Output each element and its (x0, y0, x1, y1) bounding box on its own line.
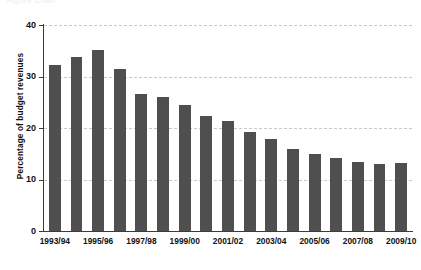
bar (222, 121, 234, 231)
bar (395, 163, 407, 231)
bar (265, 139, 277, 231)
y-tick-label: 20 (10, 124, 36, 133)
bar (71, 57, 83, 231)
bar (135, 94, 147, 232)
x-tick-label: 1999/00 (163, 236, 207, 246)
x-tick-label: 1993/94 (33, 236, 77, 246)
bar (330, 158, 342, 231)
x-tick-label: 2001/02 (206, 236, 250, 246)
clipped-caption-strip: Figure Chart (0, 0, 421, 9)
bar (157, 97, 169, 231)
x-tick-label: 1997/98 (119, 236, 163, 246)
bar (179, 105, 191, 231)
bar (92, 50, 104, 231)
x-axis-line (43, 231, 413, 232)
bar (287, 149, 299, 231)
y-tick-label: 10 (10, 175, 36, 184)
bar (200, 116, 212, 231)
bar (309, 154, 321, 231)
x-tick-label: 2003/04 (249, 236, 293, 246)
bar (244, 132, 256, 231)
gridline (44, 25, 412, 26)
y-tick-label: 0 (10, 227, 36, 236)
bar (352, 162, 364, 231)
x-tick-label: 2005/06 (293, 236, 337, 246)
bar (374, 164, 386, 231)
chart-figure: Figure Chart Percentage of budget revenu… (0, 0, 421, 270)
y-tick-label: 30 (10, 72, 36, 81)
bar (49, 65, 61, 231)
y-tick-label: 40 (10, 21, 36, 30)
y-axis-title: Percentage of budget revenues (14, 0, 28, 232)
x-tick-label: 2007/08 (336, 236, 380, 246)
plot-area (44, 25, 412, 231)
x-tick-label: 1995/96 (76, 236, 120, 246)
x-tick-label: 2009/10 (379, 236, 421, 246)
bar (114, 69, 126, 231)
y-tick-mark (39, 231, 44, 232)
